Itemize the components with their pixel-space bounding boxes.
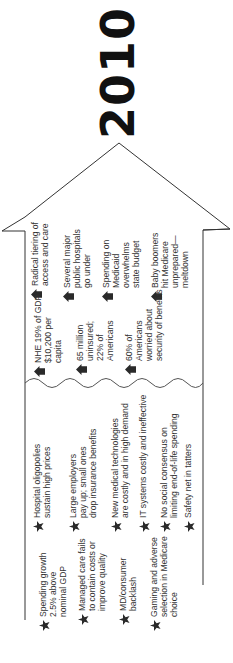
house-arrow-icon <box>76 364 87 375</box>
driver-item: Hospital oligopolies sustain high prices <box>32 444 52 532</box>
driver-item-text: Spending growth 2.5% above nominal GDP <box>38 553 68 618</box>
driver-item: Safety net in tatters <box>183 444 195 532</box>
driver-item-text: Large employers pay up; small ones drop … <box>68 429 98 518</box>
driver-item-text: Safety net in tatters <box>183 444 193 518</box>
driver-item: MD/consumer backlash <box>118 558 138 625</box>
driver-item: New medical technologies are costly and … <box>110 403 130 532</box>
star-icon <box>150 620 161 631</box>
house-arrow-icon <box>102 291 113 302</box>
driver-item: Large employers pay up; small ones drop … <box>68 429 98 532</box>
driver-item-text: Managed care fails to contain costs or i… <box>77 538 107 611</box>
star-icon <box>33 521 44 532</box>
wavy-divider <box>25 379 203 388</box>
driver-item: Gaming and adverse selection in Medicare… <box>149 536 179 631</box>
star-icon <box>184 521 195 532</box>
year-label: 2010 <box>96 10 140 135</box>
star-icon <box>78 614 89 625</box>
star-icon <box>160 521 171 532</box>
driver-item-text: No social consensus on limiting end-of-l… <box>159 413 179 518</box>
driver-item-text: MD/consumer backlash <box>118 558 138 611</box>
driver-item: IT systems costly and ineffective <box>138 395 150 532</box>
driver-item-text: IT systems costly and ineffective <box>138 395 148 518</box>
metric-item: 60% of Americans worried about security … <box>124 289 164 375</box>
year-text: 2010 <box>91 6 145 138</box>
star-icon <box>69 521 80 532</box>
metric-item: NHE 19% of GDP $10,200 per capita <box>33 295 63 377</box>
future-item: Several major public hospitals go under <box>62 229 92 302</box>
metric-item: 65 million uninsured; 22% of Americans <box>75 320 115 375</box>
house-arrow-icon <box>63 291 74 302</box>
star-icon <box>119 614 130 625</box>
arrow-head-right-notch <box>203 229 230 230</box>
metric-item-text: 65 million uninsured; 22% of Americans <box>75 320 115 361</box>
house-arrow-icon <box>34 366 45 377</box>
star-icon <box>139 521 150 532</box>
driver-item-text: Gaming and adverse selection in Medicare… <box>149 536 179 617</box>
metric-item-text: NHE 19% of GDP $10,200 per capita <box>33 295 63 363</box>
driver-item: Managed care fails to contain costs or i… <box>77 538 107 625</box>
driver-item: No social consensus on limiting end-of-l… <box>159 413 179 532</box>
driver-item-text: Hospital oligopolies sustain high prices <box>32 444 52 518</box>
metric-item-text: 60% of Americans worried about security … <box>124 289 164 361</box>
driver-item: Spending growth 2.5% above nominal GDP <box>38 553 68 632</box>
star-icon <box>39 620 50 631</box>
house-arrow-icon <box>125 364 136 375</box>
star-icon <box>111 521 122 532</box>
future-item: Radical tiering of access and care <box>30 222 50 300</box>
future-item-text: Radical tiering of access and care <box>30 222 50 286</box>
arrow-head <box>2 143 230 231</box>
future-item-text: Baby boomers hit Medicare unprepared— me… <box>150 233 190 288</box>
future-item-text: Several major public hospitals go under <box>62 229 92 288</box>
driver-item-text: New medical technologies are costly and … <box>110 403 130 518</box>
future-item-text: Spending on Medicaid overwhelms state bu… <box>101 240 141 288</box>
